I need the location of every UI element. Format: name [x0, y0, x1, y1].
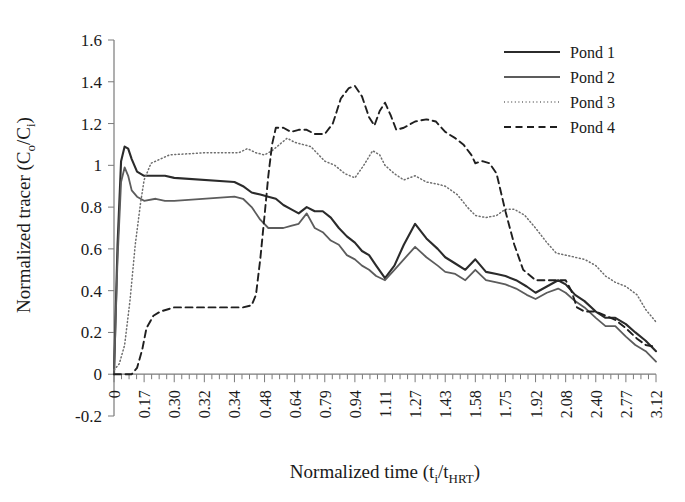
- y-axis-title-mid: /C: [13, 127, 34, 145]
- chart-figure: 1.61.41.210.80.60.40.20-0.2 00.170.300.3…: [0, 0, 685, 502]
- legend-label-pond-2: Pond 2: [570, 69, 615, 86]
- y-tick-label: 1.6: [81, 31, 102, 50]
- x-tick-label: 0.64: [287, 390, 304, 418]
- x-axis-title-main: Normalized time (t: [290, 461, 435, 483]
- x-tick-label: 0.30: [166, 390, 183, 418]
- x-tick-label: 3.12: [648, 390, 665, 418]
- y-tick-label: -0.2: [75, 407, 102, 426]
- legend-label-pond-3: Pond 3: [570, 94, 615, 111]
- x-tick-label: 1.92: [528, 390, 545, 418]
- y-axis-title-main: Normalized tracer (C: [13, 151, 35, 312]
- x-tick-label: 2.08: [558, 390, 575, 418]
- y-tick-label: 0.6: [81, 240, 102, 259]
- legend-label-pond-4: Pond 4: [570, 119, 615, 136]
- x-tick-label: 1.27: [407, 390, 424, 418]
- y-tick-label: 0.2: [81, 323, 102, 342]
- x-tick-label: 0.34: [226, 390, 243, 418]
- x-tick-label: 1.58: [467, 390, 484, 418]
- x-tick-label: 1.11: [377, 390, 394, 417]
- x-tick-label: 2.77: [618, 390, 635, 418]
- y-tick-label: 0: [94, 365, 103, 384]
- x-axis-title-end: ): [474, 461, 480, 483]
- x-tick-label: 0.79: [317, 390, 334, 418]
- x-tick-label: 0.32: [196, 390, 213, 418]
- y-tick-label: 0.4: [81, 282, 103, 301]
- x-tick-label: 2.40: [588, 390, 605, 418]
- y-tick-label: 1.2: [81, 115, 102, 134]
- x-axis-title-sub-hrt: HRT: [449, 471, 474, 486]
- y-tick-label: 1: [94, 156, 103, 175]
- x-tick-label: 1.75: [497, 390, 514, 418]
- x-tick-label: 0.48: [257, 390, 274, 418]
- tracer-line-chart: 1.61.41.210.80.60.40.20-0.2 00.170.300.3…: [0, 0, 685, 502]
- x-tick-label: 1.43: [437, 390, 454, 418]
- y-tick-label: 0.8: [81, 198, 102, 217]
- y-axis-title-end: ): [13, 117, 35, 123]
- y-tick-label: 1.4: [81, 73, 103, 92]
- x-tick-label: 0.17: [136, 390, 153, 418]
- legend-label-pond-1: Pond 1: [570, 44, 615, 61]
- x-tick-label: 0: [106, 390, 123, 398]
- x-tick-label: 0.94: [347, 390, 364, 418]
